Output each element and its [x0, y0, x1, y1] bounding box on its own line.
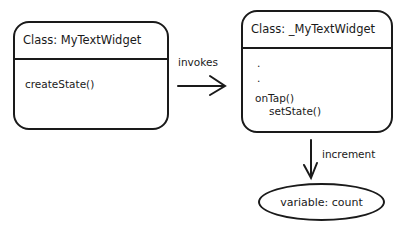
increment-arrow — [304, 140, 317, 178]
class-title: Class: _MyTextWidget — [251, 22, 375, 36]
increment-label: increment — [322, 148, 375, 160]
method-ontap: onTap() — [255, 92, 294, 104]
invokes-label: invokes — [178, 56, 218, 68]
class-divider — [13, 58, 169, 60]
variable-label: variable: count — [280, 196, 363, 209]
class-divider — [241, 47, 393, 49]
variable-count-node: variable: count — [258, 183, 385, 221]
method-setstate: setState() — [269, 105, 321, 117]
invokes-arrow — [178, 76, 225, 95]
class-box-mytextwidget: Class: MyTextWidget createState() — [13, 21, 169, 130]
method-createstate: createState() — [25, 78, 94, 90]
class-title: Class: MyTextWidget — [23, 33, 141, 47]
ellipsis-dot: . — [257, 72, 260, 84]
class-box-private-mytextwidget: Class: _MyTextWidget . . onTap() setStat… — [241, 10, 393, 133]
ellipsis-dot: . — [257, 57, 260, 69]
